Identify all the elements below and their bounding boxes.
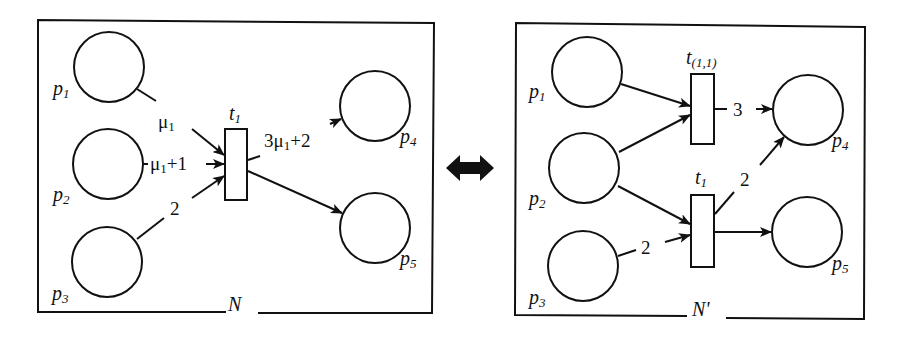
transition-label-t-1-1: t(1,1) — [686, 46, 716, 70]
place-label-p2: p2 — [51, 183, 70, 207]
transition-t1 — [225, 129, 247, 200]
arc-p1-t-1-1 — [621, 84, 690, 106]
arc-p2-t-1-1 — [619, 115, 690, 152]
place-p3 — [548, 231, 618, 301]
net-n-label: N — [227, 293, 243, 315]
arc-weight-p1-t1: μ1 — [158, 111, 175, 134]
place-label-p3: p3 — [527, 286, 546, 310]
place-label-p5: p5 — [398, 247, 417, 271]
place-label-p3: p3 — [50, 282, 69, 306]
place-p2 — [73, 129, 143, 199]
arc-p1-t1: μ1 — [137, 89, 224, 155]
transition-label-t1: t1 — [695, 166, 707, 190]
place-label-p4: p4 — [830, 129, 849, 153]
place-label-p4: p4 — [398, 125, 417, 149]
net-n-prime: N' p1 p2 p3 p4 p5 t(1,1) t1 2 — [515, 23, 865, 320]
arc-t1-p4: 3μ1+2 — [248, 119, 341, 160]
arc-t1-p5 — [248, 171, 342, 213]
transition-t-1-1 — [691, 74, 714, 144]
place-p2 — [549, 133, 619, 203]
place-label-p5: p5 — [830, 252, 849, 276]
transition-t1 — [691, 195, 714, 267]
place-label-p1: p1 — [51, 77, 70, 101]
petri-net-diagram: N p1 p2 p3 p4 p5 t1 μ1 μ1+1 2 — [0, 0, 904, 339]
arc-weight-p3-t1: 2 — [641, 237, 651, 258]
net-n-prime-label: N' — [691, 298, 710, 320]
net-n: N p1 p2 p3 p4 p5 t1 μ1 μ1+1 2 — [38, 20, 434, 315]
place-p1 — [74, 32, 144, 102]
place-p1 — [552, 37, 622, 107]
arc-weight-t1-p4: 2 — [740, 169, 750, 190]
arc-p3-t1: 2 — [618, 235, 690, 258]
transition-label-t1: t1 — [229, 102, 241, 126]
place-label-p1: p1 — [527, 80, 546, 104]
arc-p3-t1: 2 — [137, 176, 224, 239]
place-p3 — [72, 227, 142, 297]
arc-t-1-1-p4: 3 — [715, 99, 772, 120]
arc-p2-t1: μ1+1 — [143, 153, 224, 176]
arc-weight-t1-p4: 3μ1+2 — [264, 130, 310, 153]
arc-weight-p3-t1: 2 — [170, 198, 180, 219]
place-label-p2: p2 — [527, 187, 546, 211]
arc-weight-t-1-1-p4: 3 — [733, 99, 743, 120]
arc-p2-t1 — [618, 186, 690, 224]
arc-t1-p4: 2 — [715, 137, 784, 214]
double-headed-arrow-icon — [446, 155, 494, 181]
arc-weight-p2-t1: μ1+1 — [150, 153, 187, 176]
